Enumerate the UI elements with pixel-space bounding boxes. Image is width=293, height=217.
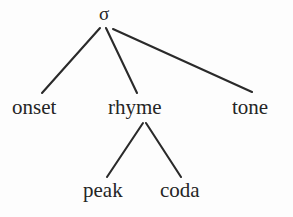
edge-rhyme-peak xyxy=(107,123,143,177)
node-rhyme: rhyme xyxy=(108,97,162,118)
node-coda: coda xyxy=(160,180,200,201)
edge-sigma-tone xyxy=(113,29,252,92)
node-peak: peak xyxy=(83,180,123,201)
node-onset: onset xyxy=(12,97,56,118)
node-sigma: σ xyxy=(99,4,109,23)
edge-rhyme-coda xyxy=(146,123,181,177)
node-tone: tone xyxy=(232,97,268,118)
edge-sigma-onset xyxy=(42,28,100,93)
syllable-tree-diagram: σ onset rhyme tone peak coda xyxy=(0,0,293,217)
